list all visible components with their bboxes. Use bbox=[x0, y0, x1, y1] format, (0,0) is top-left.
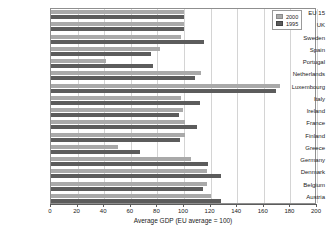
bar-2000 bbox=[51, 84, 280, 88]
bar-2000 bbox=[51, 169, 207, 173]
bar-2000 bbox=[51, 59, 106, 63]
bar-1995 bbox=[51, 76, 195, 80]
bar-row bbox=[51, 95, 315, 107]
bar-row bbox=[51, 83, 315, 95]
bar-row bbox=[51, 119, 315, 131]
x-tick-label: 180 bbox=[277, 208, 301, 215]
legend-item: 2000 bbox=[276, 13, 298, 20]
bar-1995 bbox=[51, 52, 151, 56]
bar-2000 bbox=[51, 157, 191, 161]
y-axis-label: Luxembourg bbox=[277, 84, 325, 91]
y-axis-label: Italy bbox=[277, 96, 325, 103]
x-tick bbox=[210, 204, 211, 207]
bar-1995 bbox=[51, 27, 184, 31]
bar-1995 bbox=[51, 15, 184, 19]
bar-2000 bbox=[51, 133, 185, 137]
bar-1995 bbox=[51, 199, 221, 203]
y-axis-label: Ireland bbox=[277, 108, 325, 115]
x-tick-label: 20 bbox=[65, 208, 89, 215]
legend-label-2000: 2000 bbox=[286, 14, 298, 20]
y-axis-label: Belgium bbox=[277, 182, 325, 189]
bar-row bbox=[51, 58, 315, 70]
bar-2000 bbox=[51, 120, 185, 124]
x-tick bbox=[130, 204, 131, 207]
bar-1995 bbox=[51, 40, 204, 44]
legend-swatch-1995 bbox=[276, 21, 283, 26]
bar-row bbox=[51, 168, 315, 180]
x-axis-title: Average GDP (EU average = 100) bbox=[50, 217, 316, 224]
x-tick bbox=[263, 204, 264, 207]
x-tick-label: 200 bbox=[304, 208, 328, 215]
x-tick-label: 100 bbox=[171, 208, 195, 215]
y-axis-label: Netherlands bbox=[277, 71, 325, 78]
bar-1995 bbox=[51, 174, 221, 178]
y-axis-label: Austria bbox=[277, 194, 325, 201]
x-tick-label: 160 bbox=[251, 208, 275, 215]
x-tick bbox=[236, 204, 237, 207]
bar-1995 bbox=[51, 64, 153, 68]
x-tick bbox=[316, 204, 317, 207]
bar-1995 bbox=[51, 113, 179, 117]
bar-2000 bbox=[51, 96, 181, 100]
y-axis-label: Spain bbox=[277, 47, 325, 54]
x-tick bbox=[183, 204, 184, 207]
bar-row bbox=[51, 132, 315, 144]
legend-swatch-2000 bbox=[276, 14, 283, 19]
x-tick-label: 120 bbox=[198, 208, 222, 215]
bar-1995 bbox=[51, 187, 203, 191]
y-axis-label: Greece bbox=[277, 145, 325, 152]
bar-row bbox=[51, 181, 315, 193]
bar-2000 bbox=[51, 145, 118, 149]
bar-row bbox=[51, 46, 315, 58]
bar-2000 bbox=[51, 182, 207, 186]
legend-item: 1995 bbox=[276, 20, 298, 27]
x-tick-label: 60 bbox=[118, 208, 142, 215]
bar-2000 bbox=[51, 71, 201, 75]
bar-2000 bbox=[51, 10, 184, 14]
y-axis-label: Portugal bbox=[277, 59, 325, 66]
bar-2000 bbox=[51, 194, 211, 198]
bar-row bbox=[51, 144, 315, 156]
bar-2000 bbox=[51, 22, 184, 26]
bar-row bbox=[51, 156, 315, 168]
bar-2000 bbox=[51, 47, 160, 51]
bar-1995 bbox=[51, 89, 276, 93]
legend: 2000 1995 bbox=[272, 10, 302, 30]
x-tick bbox=[50, 204, 51, 207]
legend-label-1995: 1995 bbox=[286, 21, 298, 27]
x-tick-label: 80 bbox=[144, 208, 168, 215]
bar-1995 bbox=[51, 162, 208, 166]
bar-2000 bbox=[51, 108, 183, 112]
x-tick-label: 0 bbox=[38, 208, 62, 215]
y-axis-label: France bbox=[277, 120, 325, 127]
x-tick bbox=[289, 204, 290, 207]
bar-1995 bbox=[51, 101, 200, 105]
x-tick-label: 140 bbox=[224, 208, 248, 215]
y-axis-label: Sweden bbox=[277, 35, 325, 42]
x-tick-label: 40 bbox=[91, 208, 115, 215]
bar-1995 bbox=[51, 138, 180, 142]
bar-rows bbox=[51, 9, 315, 203]
x-tick bbox=[156, 204, 157, 207]
x-tick bbox=[77, 204, 78, 207]
y-axis-label: Finland bbox=[277, 133, 325, 140]
x-tick bbox=[103, 204, 104, 207]
bar-row bbox=[51, 107, 315, 119]
y-axis-label: Denmark bbox=[277, 169, 325, 176]
bar-row bbox=[51, 70, 315, 82]
bar-1995 bbox=[51, 125, 197, 129]
bar-row bbox=[51, 34, 315, 46]
y-axis-label: Germany bbox=[277, 157, 325, 164]
bar-1995 bbox=[51, 150, 140, 154]
bar-2000 bbox=[51, 35, 181, 39]
